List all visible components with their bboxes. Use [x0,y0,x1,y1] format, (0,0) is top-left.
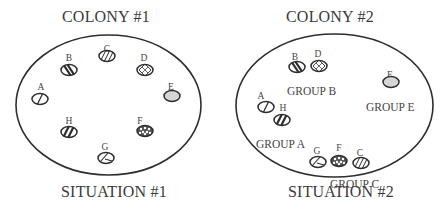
colony-label: D [315,49,322,59]
group-label: GROUP E [366,101,414,113]
colony-b-bold-hatch-icon [289,61,305,73]
colony-g-split-icon [310,156,326,168]
colony-g-split-icon [98,152,114,164]
colony-diagram: COLONY #1 COLONY #2 SITUATION #1 SITUATI… [0,0,441,210]
group-label: GROUP B [287,85,336,97]
colony-label: A [38,82,45,92]
colony-label: B [66,53,72,63]
colony-c-fine-hatch-icon [353,157,369,169]
colony-a-single-hatch-icon [32,93,48,105]
colony-label: F [137,116,142,126]
petri-dish-outline [16,35,201,175]
colony-label: B [292,52,298,62]
colony-e-gray-fill-icon [383,77,399,88]
dish-diagram: ABCDEFGHBDEAHGFCGROUP BGROUP EGROUP AGRO… [0,0,441,210]
colony-label: H [280,103,287,113]
colony-f-dotted-icon [331,156,347,167]
colony-label: A [258,91,265,101]
colony-label: G [102,142,109,152]
group-label: GROUP A [256,138,306,150]
colony-label: H [66,116,73,126]
colony-label: D [141,53,148,63]
colony-label: C [357,148,363,158]
situation-2-panel: BDEAHGFCGROUP BGROUP EGROUP AGROUP C [236,34,433,190]
colony-e-gray-fill-icon [164,91,180,102]
colony-d-crosshatch-icon [137,64,153,76]
colony-a-single-hatch-icon [258,101,274,113]
colony-f-dotted-icon [137,126,153,137]
colony-h-bold-hatch-alt-icon [274,114,290,126]
colony-label: G [314,146,321,156]
colony-label: F [336,143,341,153]
colony-h-bold-hatch-alt-icon [61,126,77,138]
colony-b-bold-hatch-icon [61,64,77,76]
situation-1-panel: ABCDEFGH [16,35,201,175]
group-label: GROUP C [330,178,379,190]
colony-d-crosshatch-icon [311,60,327,72]
